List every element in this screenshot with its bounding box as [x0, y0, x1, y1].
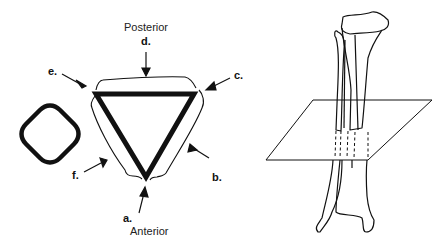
posterior-label: Posterior	[124, 22, 168, 33]
figure-drawing	[0, 0, 448, 244]
anatomy-figure: Posterior d. e. c. f. b. a. Anterior	[0, 0, 448, 244]
tibia-fibula-plane	[266, 12, 432, 232]
label-a: a.	[123, 213, 132, 224]
arrows	[62, 52, 230, 213]
triangular-cross-section	[91, 77, 203, 180]
label-f: f.	[72, 170, 79, 181]
arrow-f	[84, 163, 101, 172]
anterior-label: Anterior	[130, 226, 169, 237]
label-e: e.	[48, 66, 57, 77]
label-b: b.	[212, 172, 222, 183]
label-c: c.	[234, 70, 243, 81]
label-d: d.	[141, 36, 151, 47]
round-cross-section	[22, 106, 79, 163]
